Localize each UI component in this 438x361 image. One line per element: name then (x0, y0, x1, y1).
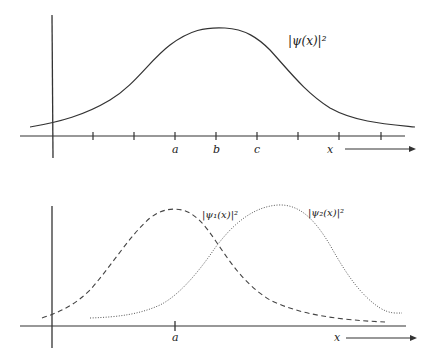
bottom-x-direction-arrow (346, 335, 417, 341)
tick-label-a: a (172, 143, 179, 156)
psi2-squared-label: |ψ₂(x)|² (308, 207, 344, 219)
x-direction-arrow (345, 146, 416, 152)
bottom-x-axis-label: x (334, 331, 341, 344)
bottom-tick-label-a: a (172, 331, 179, 344)
psi-squared-label: |ψ(x)|² (288, 34, 327, 48)
top-plot: |ψ(x)|² a b c x (20, 15, 416, 158)
psi2-squared-curve (90, 205, 402, 318)
wavefunction-diagram: |ψ(x)|² a b c x |ψ₁(x)|² |ψ₂(x)|² a x (0, 0, 438, 361)
psi1-squared-curve (42, 209, 385, 322)
bottom-plot: |ψ₁(x)|² |ψ₂(x)|² a x (20, 205, 417, 348)
psi1-squared-label: |ψ₁(x)|² (202, 209, 238, 221)
tick-label-c: c (254, 143, 260, 156)
psi-squared-curve (30, 28, 415, 127)
x-axis-label: x (327, 143, 334, 156)
tick-label-b: b (213, 143, 220, 156)
